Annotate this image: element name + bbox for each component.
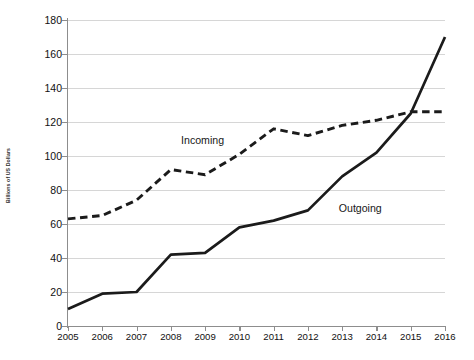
y-axis-tick-mark	[62, 190, 67, 191]
y-axis-tick-label: 120	[44, 116, 62, 128]
y-axis-tick-label: 160	[44, 48, 62, 60]
x-axis-tick-mark	[171, 326, 172, 331]
line-chart: Billions of US Dollars 02040608010012014…	[0, 0, 474, 360]
x-axis-tick-label: 2015	[400, 331, 421, 342]
x-axis-line	[67, 326, 446, 327]
y-axis-tick-mark	[62, 20, 67, 21]
y-axis-tick-label: 100	[44, 150, 62, 162]
y-axis-tick-label: 140	[44, 82, 62, 94]
y-axis-tick-mark	[62, 88, 67, 89]
x-axis-tick-label: 2014	[366, 331, 387, 342]
x-axis-tick-mark	[102, 326, 103, 331]
x-axis-tick-mark	[308, 326, 309, 331]
gridline	[68, 88, 445, 89]
gridline	[68, 258, 445, 259]
y-axis-tick-mark	[62, 224, 67, 225]
y-axis-tick-mark	[62, 122, 67, 123]
y-axis-tick-mark	[62, 292, 67, 293]
y-axis-title: Billions of US Dollars	[5, 148, 11, 203]
series-line-incoming	[68, 112, 445, 219]
x-axis-tick-label: 2005	[57, 331, 78, 342]
gridline	[68, 224, 445, 225]
x-axis-tick-mark	[137, 326, 138, 331]
x-axis-tick-label: 2010	[229, 331, 250, 342]
y-axis-tick-label: 180	[44, 14, 62, 26]
x-axis-tick-mark	[445, 326, 446, 331]
x-axis-tick-mark	[342, 326, 343, 331]
x-axis-tick-mark	[376, 326, 377, 331]
x-axis-tick-mark	[411, 326, 412, 331]
x-axis-tick-label: 2007	[126, 331, 147, 342]
x-axis-tick-label: 2008	[160, 331, 181, 342]
y-axis-line	[67, 18, 68, 328]
gridline	[68, 54, 445, 55]
x-axis-tick-label: 2006	[92, 331, 113, 342]
x-axis-tick-label: 2011	[263, 331, 284, 342]
x-axis-tick-mark	[205, 326, 206, 331]
y-axis-tick-label: 80	[50, 184, 62, 196]
y-axis-tick-mark	[62, 258, 67, 259]
y-axis-tick-label: 20	[50, 286, 62, 298]
y-axis-tick-label: 60	[50, 218, 62, 230]
series-line-outgoing	[68, 37, 445, 309]
x-axis-tick-mark	[274, 326, 275, 331]
x-axis-tick-label: 2012	[297, 331, 318, 342]
x-axis-tick-mark	[239, 326, 240, 331]
y-axis-tick-label: 40	[50, 252, 62, 264]
x-axis-tick-label: 2013	[332, 331, 353, 342]
gridline	[68, 20, 445, 21]
y-axis-tick-mark	[62, 54, 67, 55]
gridline	[68, 156, 445, 157]
y-axis-tick-mark	[62, 156, 67, 157]
gridline	[68, 292, 445, 293]
x-axis-tick-mark	[68, 326, 69, 331]
gridline	[68, 122, 445, 123]
y-axis-tick-labels: 020406080100120140160180	[28, 0, 62, 360]
series-label-outgoing: Outgoing	[339, 202, 382, 214]
x-axis-tick-label: 2016	[434, 331, 455, 342]
x-axis-tick-label: 2009	[194, 331, 215, 342]
series-label-incoming: Incoming	[181, 134, 224, 146]
gridline	[68, 190, 445, 191]
y-axis-tick-mark	[62, 326, 67, 327]
